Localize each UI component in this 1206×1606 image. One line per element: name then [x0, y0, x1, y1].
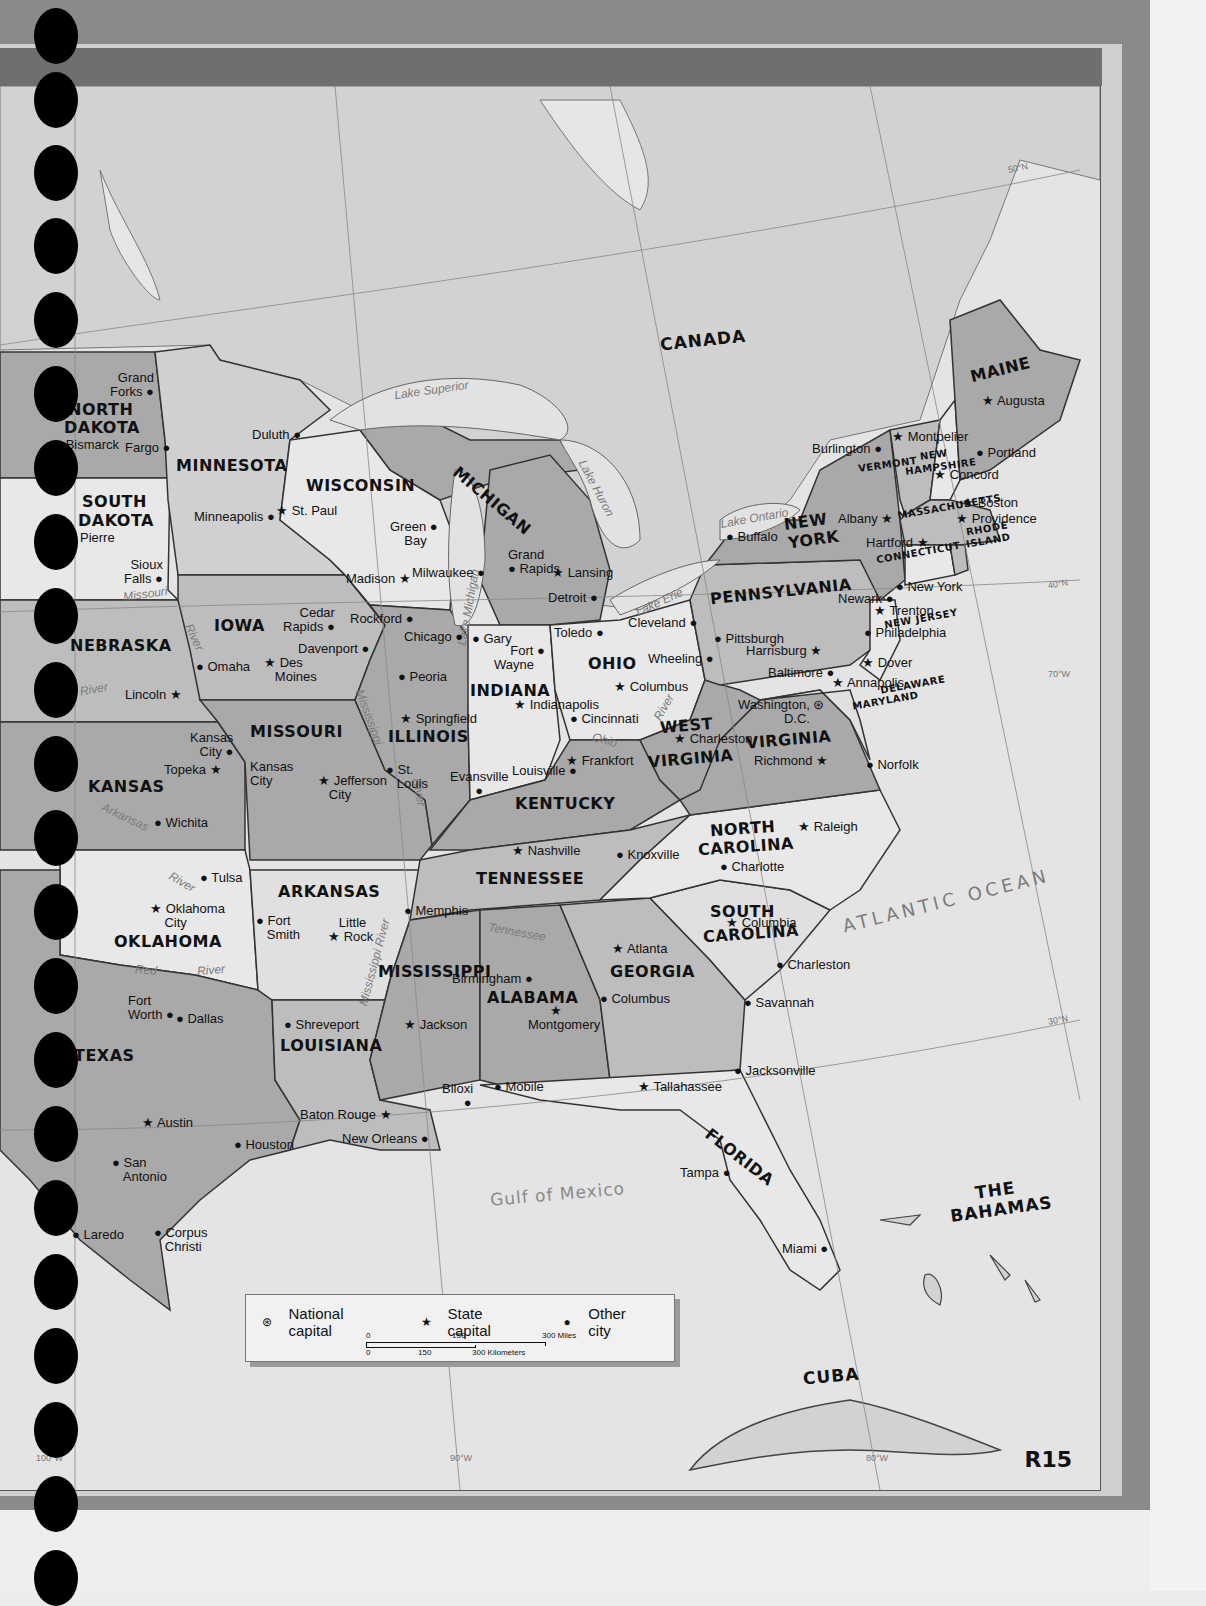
map-legend: ⊛ National capital ★ State capital ● Oth… [245, 1294, 675, 1362]
city-kansas-city-ks: KansasCity ● [190, 731, 233, 758]
binding-hole [34, 810, 78, 866]
city-grand-forks: GrandForks ● [110, 371, 154, 398]
state-arkansas: ARKANSAS [278, 884, 380, 901]
city-biloxi: Biloxi ● [442, 1082, 473, 1109]
city-miami: Miami ● [782, 1242, 828, 1256]
eastern-us-map: CANADA THE BAHAMAS CUBA ATLANTIC OCEAN G… [0, 86, 1101, 1491]
binding-hole [34, 1254, 78, 1310]
city-wheeling: Wheeling ● [648, 652, 714, 666]
binding-hole [34, 514, 78, 570]
city-norfolk: ● Norfolk [866, 758, 919, 772]
city-chicago: Chicago ● [404, 630, 463, 644]
binding-hole [34, 292, 78, 348]
binding-hole [34, 218, 78, 274]
city-houston: ● Houston [234, 1138, 294, 1152]
state-georgia: GEORGIA [610, 964, 695, 981]
city-mobile: ● Mobile [494, 1080, 544, 1094]
city-baton-rouge: Baton Rouge ★ [300, 1108, 392, 1122]
city-augusta: ★ Augusta [982, 394, 1045, 408]
state-louisiana: LOUISIANA [280, 1038, 382, 1055]
city-newark: Newark ● [838, 592, 894, 606]
label-red-river-1: Red [134, 963, 157, 977]
city-birmingham: Birmingham ● [452, 972, 533, 986]
binding-hole [34, 1550, 78, 1606]
city-charlotte: ● Charlotte [720, 860, 784, 874]
state-tennessee: TENNESSEE [476, 871, 584, 888]
city-oklahoma-city: ★ Oklahoma City [150, 902, 225, 929]
grid-80w: 80°W [866, 1454, 888, 1463]
city-raleigh: ★ Raleigh [798, 820, 858, 834]
state-kansas: KANSAS [88, 779, 165, 796]
state-nebraska: NEBRASKA [70, 638, 172, 655]
city-austin: ★ Austin [142, 1116, 193, 1130]
city-concord: ★ Concord [934, 468, 999, 482]
city-providence: ★ Providence [956, 512, 1037, 526]
city-omaha: ● Omaha [196, 660, 250, 674]
city-albany: Albany ★ [838, 512, 893, 526]
state-south-dakota-1: SOUTH [82, 494, 147, 511]
city-boston: ★ Boston [962, 496, 1018, 510]
grid-70w: 70°W [1048, 670, 1070, 679]
city-savannah: ● Savannah [744, 996, 814, 1010]
city-tampa: Tampa ● [680, 1166, 731, 1180]
city-fort-smith: ● Fort Smith [256, 914, 300, 941]
city-new-orleans: New Orleans ● [342, 1132, 429, 1146]
city-tallahassee: ★ Tallahassee [638, 1080, 722, 1094]
city-kansas-city-mo: KansasCity [250, 760, 293, 787]
city-columbus-ga: ● Columbus [600, 992, 670, 1006]
state-iowa: IOWA [214, 618, 265, 635]
city-richmond: Richmond ★ [754, 754, 828, 768]
city-minneapolis: Minneapolis ● [194, 510, 275, 524]
state-minnesota: MINNESOTA [176, 458, 287, 475]
city-burlington: Burlington ● [812, 442, 882, 456]
state-illinois: ILLINOIS [388, 729, 469, 746]
binding-hole [34, 736, 78, 792]
city-baltimore: Baltimore ● [768, 666, 834, 680]
state-missouri: MISSOURI [250, 724, 343, 741]
city-duluth: Duluth ● [252, 428, 301, 442]
legend-item-national-capital: ⊛ National capital [260, 1305, 381, 1339]
binding-hole [34, 1180, 78, 1236]
map-geography [0, 86, 1100, 1490]
city-pierre: Pierre [80, 531, 115, 545]
label-red-river-2: River [197, 963, 226, 978]
state-kentucky: KENTUCKY [515, 796, 615, 813]
city-jefferson-city: ★ Jefferson City [318, 774, 387, 801]
binding-hole [34, 8, 78, 64]
binding-hole [34, 662, 78, 718]
state-wisconsin: WISCONSIN [306, 478, 415, 495]
city-san-antonio: ● San Antonio [112, 1156, 167, 1183]
spiral-binding [34, 0, 80, 1591]
binding-hole [34, 145, 78, 201]
city-montgomery: ★Montgomery [528, 1004, 600, 1031]
city-springfield: ★ Springfield [400, 712, 477, 726]
binding-hole [34, 588, 78, 644]
city-atlanta: ★ Atlanta [612, 942, 667, 956]
city-charleston-wv: ★ Charleston [674, 732, 753, 746]
city-toledo: Toledo ● [554, 626, 604, 640]
city-montpelier: ★ Montpelier [892, 430, 968, 444]
blank-margin-right [1150, 0, 1206, 1591]
city-cleveland: Cleveland ● [628, 616, 697, 630]
city-buffalo: ● Buffalo [726, 530, 778, 544]
state-oklahoma: OKLAHOMA [114, 934, 222, 951]
city-green-bay: Green ●Bay [390, 520, 438, 547]
binding-hole [34, 958, 78, 1014]
city-columbus-oh: ★ Columbus [614, 680, 688, 694]
city-sioux-falls: SiouxFalls ● [124, 558, 163, 585]
other-city-icon: ● [560, 1315, 574, 1329]
city-detroit: Detroit ● [548, 591, 598, 605]
header-band [0, 48, 1102, 86]
city-evansville: Evansville ● [450, 770, 509, 797]
city-tulsa: ● Tulsa [200, 871, 243, 885]
city-fort-worth: FortWorth ● [128, 994, 174, 1021]
city-lansing: ★ Lansing [552, 566, 613, 580]
city-annapolis: ★ Annapolis [832, 676, 904, 690]
city-little-rock: Little★ Rock [328, 916, 373, 943]
city-shreveport: ● Shreveport [284, 1018, 359, 1032]
city-jackson: ★ Jackson [404, 1018, 467, 1032]
city-st-louis: ● St. Louis [386, 763, 428, 790]
binding-hole [34, 1032, 78, 1088]
city-madison: Madison ★ [346, 572, 411, 586]
city-milwaukee: Milwaukee ● [412, 566, 485, 580]
